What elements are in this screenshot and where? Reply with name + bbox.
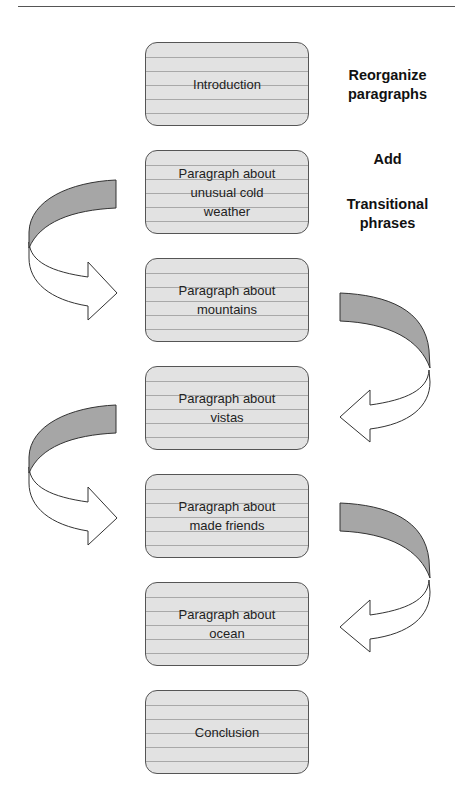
arrows-layer [0,0,455,812]
curved-arrow-left-2-icon [29,405,117,545]
curved-arrow-left-1-icon [29,180,117,320]
curved-arrow-right-1-icon [340,293,430,442]
curved-arrow-right-2-icon [340,503,430,652]
